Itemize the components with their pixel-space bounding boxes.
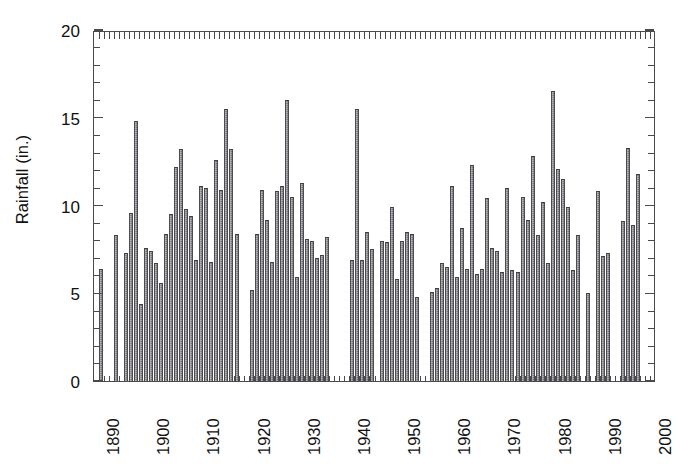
x-axis-tick-label: 1960 <box>455 395 474 455</box>
x-axis-tick-labels: 1890190019101920193019401950196019701980… <box>0 0 697 470</box>
x-axis-tick-label: 1930 <box>305 395 324 455</box>
x-axis-tick-label: 1970 <box>505 395 524 455</box>
x-axis-tick-label: 1890 <box>104 395 123 455</box>
x-axis-tick-label: 1980 <box>556 395 575 455</box>
x-axis-tick-label: 2000 <box>656 395 675 455</box>
x-axis-tick-label: 1900 <box>154 395 173 455</box>
figure-caption <box>95 461 655 470</box>
x-axis-tick-label: 1920 <box>255 395 274 455</box>
x-axis-tick-label: 1950 <box>405 395 424 455</box>
rainfall-histogram-figure: Rainfall (in.) 05101520 1890190019101920… <box>0 0 697 470</box>
x-axis-tick-label: 1990 <box>606 395 625 455</box>
x-axis-tick-label: 1940 <box>355 395 374 455</box>
x-axis-tick-label: 1910 <box>204 395 223 455</box>
